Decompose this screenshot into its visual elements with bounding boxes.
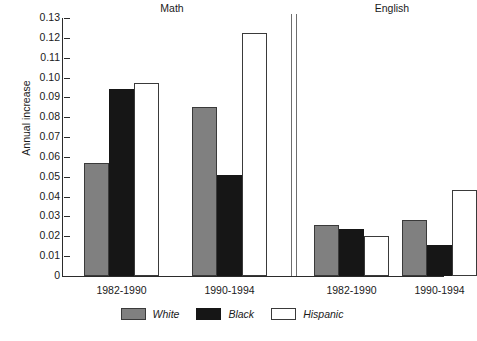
legend-entry-white: White [121, 308, 180, 320]
legend-label: White [153, 308, 180, 320]
y-tick-mark [64, 137, 70, 138]
panel-divider-line [291, 14, 292, 276]
legend-label: Hispanic [303, 308, 343, 320]
x-axis-group-label: 1982-1990 [96, 284, 146, 296]
x-axis-group-label: 1990-1994 [204, 284, 254, 296]
y-axis-line [62, 18, 63, 276]
plot-area: 0.130.120.110.100.090.080.070.060.050.04… [62, 18, 442, 276]
y-tick-mark [64, 177, 70, 178]
bar [84, 163, 109, 276]
y-tick-label: 0.05 [40, 170, 60, 182]
legend-entry-black: Black [196, 308, 254, 320]
bar [192, 107, 217, 276]
y-tick-mark [64, 117, 70, 118]
y-tick-mark [64, 256, 70, 257]
bar [339, 229, 364, 276]
y-tick-label: 0.10 [40, 71, 60, 83]
panel-divider-line [296, 14, 297, 276]
x-axis-group-label: 1982-1990 [326, 284, 376, 296]
y-tick-mark [64, 276, 70, 277]
y-tick-mark [64, 157, 70, 158]
y-tick-mark [64, 97, 70, 98]
chart-legend: WhiteBlackHispanic [0, 308, 464, 320]
x-axis-line [62, 276, 444, 277]
y-tick-mark [64, 78, 70, 79]
y-tick-label: 0.03 [40, 209, 60, 221]
y-tick-label: 0.09 [40, 90, 60, 102]
y-axis-label: Annual increase [20, 38, 32, 198]
y-tick-mark [64, 18, 70, 19]
y-tick-label: 0.08 [40, 110, 60, 122]
y-tick-mark [64, 38, 70, 39]
legend-entry-hispanic: Hispanic [271, 308, 343, 320]
y-tick-mark [64, 197, 70, 198]
y-tick-label: 0.07 [40, 130, 60, 142]
y-tick-label: 0.01 [40, 249, 60, 261]
bar [109, 89, 134, 276]
bar [217, 175, 242, 276]
bar [242, 33, 267, 276]
y-tick-label: 0.06 [40, 150, 60, 162]
legend-swatch [196, 308, 221, 320]
bar [402, 220, 427, 276]
y-tick-mark [64, 236, 70, 237]
y-tick-label: 0.13 [40, 11, 60, 23]
bar [427, 245, 452, 276]
bar [364, 236, 389, 276]
bar [452, 190, 477, 276]
legend-label: Black [228, 308, 254, 320]
y-tick-label: 0.04 [40, 190, 60, 202]
y-tick-mark [64, 58, 70, 59]
legend-swatch [271, 308, 296, 320]
bar [134, 83, 159, 277]
y-tick-mark [64, 216, 70, 217]
panel-title-math: Math [160, 2, 183, 14]
y-tick-label: 0.11 [40, 51, 60, 63]
y-tick-label: 0.02 [40, 229, 60, 241]
x-axis-group-label: 1990-1994 [414, 284, 464, 296]
y-tick-label: 0 [54, 269, 60, 281]
y-tick-label: 0.12 [40, 31, 60, 43]
bar [314, 225, 339, 276]
panel-title-english: English [375, 2, 409, 14]
legend-swatch [121, 308, 146, 320]
